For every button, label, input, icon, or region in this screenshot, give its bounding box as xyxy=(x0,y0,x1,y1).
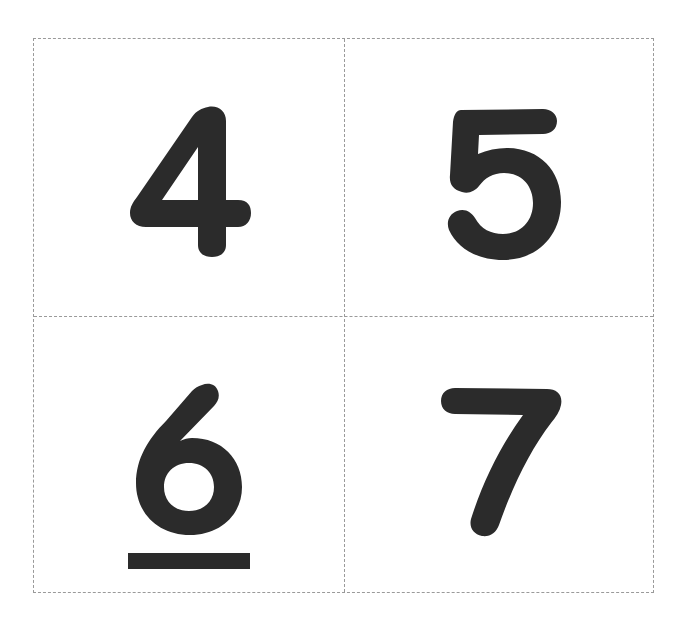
digit-6-underline xyxy=(128,553,250,569)
digit-7-glyph xyxy=(441,387,563,537)
number-card-4: 4 xyxy=(34,39,344,316)
number-card-5: 5 xyxy=(345,39,654,316)
digit-5-glyph xyxy=(447,108,561,260)
number-card-sheet: 4 5 6 7 xyxy=(33,38,654,593)
number-card-7: 7 xyxy=(345,317,654,593)
digit-4-glyph xyxy=(130,105,252,257)
number-card-6: 6 xyxy=(34,317,344,593)
digit-6-glyph xyxy=(134,383,244,535)
